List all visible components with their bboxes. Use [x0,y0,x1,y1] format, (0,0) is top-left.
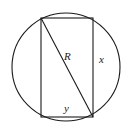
horizontal-side-label: y [64,103,69,114]
diagonal-label: R [64,51,71,62]
vertical-side-label: x [99,54,104,65]
geometry-canvas [0,0,130,135]
geometry-figure: R x y [0,0,130,135]
